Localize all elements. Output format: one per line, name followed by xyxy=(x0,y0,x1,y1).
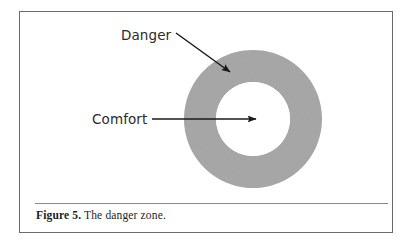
figure-caption-text: The danger zone. xyxy=(81,209,166,221)
danger-label: Danger xyxy=(121,27,171,43)
donut-illustration: Danger Comfort xyxy=(0,0,412,200)
figure-caption: Figure 5. The danger zone. xyxy=(36,209,166,221)
caption-divider-rule xyxy=(35,203,388,204)
figure-page: Danger Comfort Figure 5. The danger zone… xyxy=(0,0,412,246)
figure-number: Figure 5. xyxy=(36,209,81,221)
danger-leader-arrow xyxy=(176,33,230,72)
comfort-label: Comfort xyxy=(92,111,147,127)
donut-diagram-svg xyxy=(0,0,412,200)
